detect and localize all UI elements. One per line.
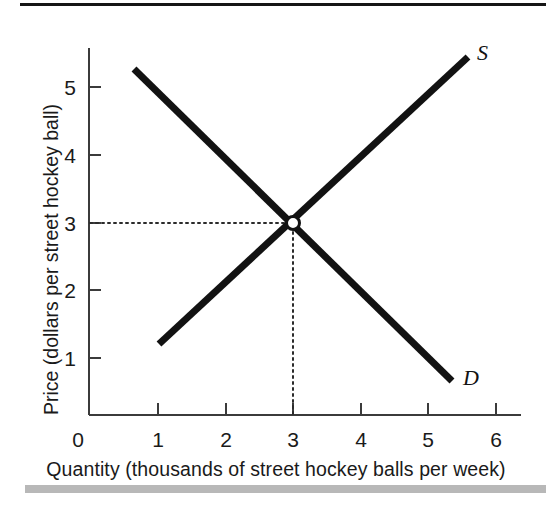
x-tick-label-4: 4 [346, 429, 376, 450]
demand-curve-label: D [463, 365, 479, 391]
supply-curve [159, 57, 468, 344]
x-tick-label-0: 0 [63, 429, 93, 450]
y-axis-title: Price (dollars per street hockey ball) [40, 104, 63, 415]
x-tick-label-5: 5 [413, 429, 443, 450]
bottom-rule-bar [25, 485, 546, 493]
x-tick-label-6: 6 [481, 429, 511, 450]
x-axis-title: Quantity (thousands of street hockey bal… [0, 458, 552, 481]
y-tick-label-5: 5 [52, 77, 76, 98]
equilibrium-point-marker [287, 217, 300, 230]
supply-curve-label: S [477, 40, 488, 66]
figure-container: 1 2 3 4 5 0 1 2 3 4 5 6 Quantity (thousa… [0, 0, 552, 506]
x-tick-label-1: 1 [143, 429, 173, 450]
x-tick-label-2: 2 [211, 429, 241, 450]
x-tick-label-3: 3 [278, 429, 308, 450]
